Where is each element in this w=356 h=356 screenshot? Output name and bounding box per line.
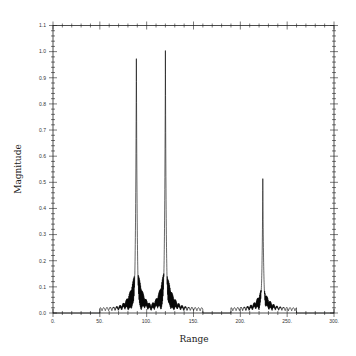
y-tick-label: 0.8 — [39, 101, 46, 107]
y-tick-label: 0.4 — [39, 205, 46, 211]
y-tick-label: 0.7 — [39, 127, 46, 133]
chart: 0.50.100.150.200.250.300.0.00.10.20.30.4… — [0, 0, 356, 356]
x-tick-label: 250. — [282, 318, 292, 324]
magnitude-series-line — [53, 51, 334, 313]
y-axis-title: Magnitude — [13, 144, 23, 194]
x-tick-label: 0. — [51, 318, 55, 324]
plot-frame — [53, 26, 334, 314]
x-tick-label: 100. — [142, 318, 152, 324]
y-tick-label: 0.5 — [39, 179, 46, 185]
y-tick-label: 0.0 — [39, 310, 46, 316]
axis-ticks — [49, 22, 338, 318]
y-tick-label: 0.2 — [39, 258, 46, 264]
y-tick-label: 0.1 — [39, 284, 46, 290]
y-tick-label: 0.6 — [39, 153, 46, 159]
x-tick-label: 150. — [189, 318, 199, 324]
x-tick-label: 50. — [96, 318, 103, 324]
y-tick-label: 1.0 — [39, 48, 46, 54]
y-tick-label: 0.3 — [39, 231, 46, 237]
x-tick-label: 300. — [329, 318, 339, 324]
y-tick-label: 0.9 — [39, 75, 46, 81]
y-tick-label: 1.1 — [39, 22, 46, 28]
axis-tick-labels: 0.50.100.150.200.250.300.0.00.10.20.30.4… — [39, 22, 339, 324]
x-axis-title: Range — [179, 334, 208, 344]
x-tick-label: 200. — [235, 318, 245, 324]
